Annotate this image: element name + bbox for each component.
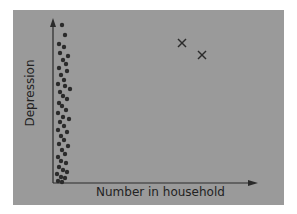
data-point [63,152,67,156]
data-point [63,84,67,88]
data-point [58,51,62,55]
data-point [56,128,60,132]
data-point [56,179,60,183]
data-point [60,104,64,108]
data-point [60,148,64,152]
data-point [62,124,66,128]
data-point [61,58,65,62]
data-point [56,111,60,115]
data-point [64,108,68,112]
y-axis-label: Depression [23,59,37,126]
scatter-plot [0,0,297,214]
data-point [55,172,59,176]
x-marker-icon [178,39,186,47]
data-point [66,54,70,58]
data-point [60,23,64,27]
data-point [62,78,66,82]
data-point [67,117,71,121]
data-point [65,170,69,174]
x-markers [178,39,206,59]
data-point [61,115,65,119]
data-point [64,161,68,165]
data-point [65,130,69,134]
data-point [61,168,65,172]
data-point [68,87,72,91]
data-point [66,144,70,148]
data-point [57,165,61,169]
x-axis-arrow-icon [248,180,258,186]
data-point [59,175,63,179]
data-point [57,142,61,146]
data-point [61,94,65,98]
y-axis-arrow-icon [50,18,56,27]
data-point [65,97,69,101]
data-point [59,159,63,163]
data-point [62,138,66,142]
dot-cluster [55,23,72,184]
data-point [56,155,60,159]
axes [50,18,258,186]
data-point [63,176,67,180]
data-point [56,82,60,86]
x-marker-icon [198,51,206,59]
data-point [65,69,69,73]
data-point [64,62,68,66]
x-axis-label: Number in household [96,185,225,199]
data-point [58,90,62,94]
data-point [62,45,66,49]
data-point [60,180,64,184]
data-point [59,134,63,138]
data-point [63,33,67,37]
data-point [59,73,63,77]
data-point [57,66,61,70]
data-point [58,120,62,124]
data-point [57,42,61,46]
